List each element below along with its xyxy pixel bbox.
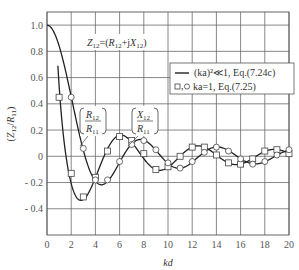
circle-marker	[274, 152, 280, 158]
circle-marker	[226, 148, 232, 154]
y-tick-label: 0.2	[31, 125, 44, 136]
y-tick-label: 0	[38, 151, 43, 162]
y-tick-label: - 0.2	[25, 177, 43, 188]
legend-circle-swatch	[184, 84, 189, 89]
square-marker	[177, 153, 183, 159]
y-tick-label: 0.4	[31, 98, 44, 109]
legend-entry-line: (ka)²≪1, Eq.(7.24c)	[194, 67, 275, 79]
legend-entry-markers: ka=1, Eq.(7.25)	[193, 81, 256, 93]
square-marker	[189, 144, 195, 150]
square-marker	[153, 166, 159, 172]
svg-text:(Z12/R11): (Z12/R11)	[5, 107, 18, 142]
square-marker	[226, 160, 232, 166]
square-marker	[262, 148, 268, 154]
x-tick-label: 4	[93, 239, 98, 250]
circle-marker	[80, 145, 86, 151]
circle-marker	[238, 156, 244, 162]
circle-marker	[165, 160, 171, 166]
x-tick-label: 12	[187, 239, 197, 250]
circle-marker	[262, 159, 268, 165]
y-tick-label: 0.8	[31, 46, 44, 57]
circle-marker	[189, 159, 195, 165]
r-ratio-annotation: R12 R11	[80, 106, 106, 146]
svg-text:,: ,	[181, 80, 184, 91]
square-marker	[141, 151, 147, 157]
circle-marker	[153, 147, 159, 153]
chart: 02468101214161820 1.00.80.60.40.20- 0.2-…	[0, 0, 299, 270]
circle-marker	[201, 149, 207, 155]
x-tick-label: 6	[117, 239, 122, 250]
square-marker	[105, 148, 111, 154]
square-marker	[68, 170, 74, 176]
x-tick-label: 20	[284, 239, 294, 250]
circle-marker	[250, 161, 256, 167]
square-marker	[117, 134, 123, 140]
x-tick-label: 8	[141, 239, 146, 250]
y-tick-labels: 1.00.80.60.40.20- 0.2- 0.4	[25, 20, 43, 215]
legend: (ka)²≪1, Eq.(7.24c) , ka=1, Eq.(7.25)	[170, 63, 294, 94]
circle-marker	[141, 138, 147, 144]
circle-marker	[117, 159, 123, 165]
y-tick-label: 1.0	[31, 20, 44, 31]
circle-marker	[105, 177, 111, 183]
x-axis-label: kd	[163, 257, 173, 268]
square-marker	[213, 152, 219, 158]
formula-annotation: Z12=(R12+jX12)	[84, 34, 156, 50]
x-tick-label: 0	[45, 239, 50, 250]
x-tick-label: 18	[260, 239, 270, 250]
circle-marker	[177, 165, 183, 171]
y-tick-label: - 0.4	[25, 203, 43, 214]
y-tick-label: 0.6	[31, 72, 44, 83]
x-tick-label: 14	[211, 239, 221, 250]
y-axis-label: (Z12/R11)	[5, 107, 18, 142]
x-tick-label: 2	[69, 239, 74, 250]
x-tick-label: 10	[163, 239, 173, 250]
circle-marker	[68, 94, 74, 100]
square-marker	[56, 94, 62, 100]
circle-marker	[213, 144, 219, 150]
legend-square-swatch	[175, 84, 180, 89]
x-tick-label: 16	[236, 239, 246, 250]
circle-marker	[92, 177, 98, 183]
circle-marker	[286, 147, 292, 153]
square-marker	[80, 194, 86, 200]
x-tick-labels: 02468101214161820	[45, 239, 295, 250]
